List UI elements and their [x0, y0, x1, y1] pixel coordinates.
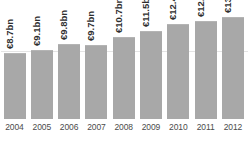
- plot-area: €8.7bn€9.1bn€9.8bn€9.7bn€10.7bn€11.5bn€1…: [0, 8, 249, 120]
- bar: [85, 45, 107, 120]
- axis-baseline: [0, 119, 249, 120]
- bar: [195, 21, 217, 120]
- bar-value-label: €11.5bn: [141, 0, 151, 27]
- x-axis-tick-2005: 2005: [29, 122, 55, 132]
- bar-value-label: €8.7bn: [5, 19, 15, 49]
- bar-value-label: €12.4bn: [168, 0, 178, 20]
- x-axis-labels: 200420052006200720082009201020112012: [0, 122, 249, 138]
- bar-value-label: €10.7bn: [114, 0, 124, 33]
- bar-value-label: €12.8bn: [196, 0, 206, 17]
- x-axis-tick-2007: 2007: [83, 122, 109, 132]
- bar-chart: €8.7bn€9.1bn€9.8bn€9.7bn€10.7bn€11.5bn€1…: [0, 0, 249, 145]
- bar-series: €8.7bn€9.1bn€9.8bn€9.7bn€10.7bn€11.5bn€1…: [0, 8, 249, 120]
- bar: [4, 53, 26, 120]
- bar: [58, 44, 80, 120]
- x-axis-tick-2011: 2011: [193, 122, 219, 132]
- x-axis-tick-2004: 2004: [2, 122, 28, 132]
- bar-value-label: €9.7bn: [86, 11, 96, 41]
- chart-title: [0, 0, 249, 2]
- bar: [140, 31, 162, 120]
- bar-value-label: €9.1bn: [32, 16, 42, 46]
- bar: [113, 37, 135, 120]
- bar: [31, 50, 53, 120]
- bar: [222, 17, 244, 120]
- x-axis-tick-2008: 2008: [111, 122, 137, 132]
- x-axis-tick-2006: 2006: [56, 122, 82, 132]
- bar-value-label: €9.8bn: [59, 10, 69, 40]
- bar-value-label: €13.3bn: [223, 0, 233, 13]
- x-axis-tick-2010: 2010: [165, 122, 191, 132]
- x-axis-tick-2009: 2009: [138, 122, 164, 132]
- bar: [167, 24, 189, 120]
- x-axis-tick-2012: 2012: [220, 122, 246, 132]
